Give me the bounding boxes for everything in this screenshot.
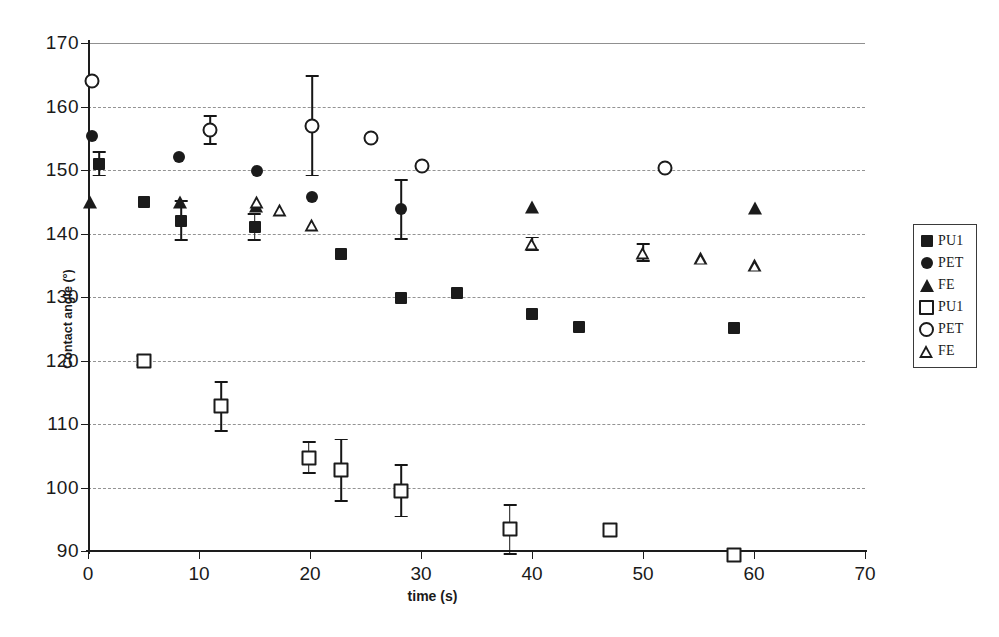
x-axis-title: time (s) — [0, 588, 865, 604]
y-tick-label-160: 160 — [46, 96, 79, 118]
legend-item-label: PET — [938, 255, 964, 271]
legend-item-label: PU1 — [938, 299, 964, 315]
y-tick-label-130: 130 — [46, 286, 79, 308]
data-point — [602, 523, 617, 538]
open-square-icon — [919, 300, 934, 315]
legend-item-label: FE — [938, 277, 955, 293]
legend-item-0: PU1 — [919, 230, 973, 252]
y-tick-140 — [81, 234, 90, 235]
x-tick-20 — [310, 551, 311, 559]
data-point — [249, 195, 264, 208]
y-tick-100 — [81, 488, 90, 489]
data-point — [305, 118, 320, 133]
data-point — [249, 221, 261, 233]
data-point — [138, 196, 150, 208]
legend-item-5: FE — [919, 340, 973, 362]
data-point — [395, 292, 407, 304]
chart-legend: PU1PETFEPU1PETFE — [913, 224, 977, 368]
contact-angle-chart: Contact angle (°) time (s) 9010011012013… — [0, 0, 999, 637]
data-point — [748, 259, 763, 272]
data-point — [658, 161, 673, 176]
data-point — [136, 353, 151, 368]
y-tick-label-150: 150 — [46, 159, 79, 181]
x-tick-60 — [754, 551, 755, 559]
y-tick-130 — [81, 297, 90, 298]
y-tick-160 — [81, 107, 90, 108]
data-point — [273, 204, 288, 217]
data-point — [175, 215, 187, 227]
gridline-y-170 — [88, 43, 865, 44]
data-point — [502, 522, 517, 537]
gridline-y-110 — [88, 424, 865, 425]
gridline-y-140 — [88, 234, 865, 235]
data-point — [305, 218, 320, 231]
y-tick-label-170: 170 — [46, 32, 79, 54]
data-point — [335, 248, 347, 260]
legend-item-3: PU1 — [919, 296, 973, 318]
x-tick-label-10: 10 — [188, 563, 209, 585]
y-tick-120 — [81, 361, 90, 362]
gridline-y-100 — [88, 488, 865, 489]
gridline-y-160 — [88, 107, 865, 108]
filled-circle-icon — [919, 257, 934, 269]
x-tick-label-20: 20 — [299, 563, 320, 585]
data-point — [214, 399, 229, 414]
x-tick-label-30: 30 — [410, 563, 431, 585]
y-tick-150 — [81, 170, 90, 171]
data-point — [748, 202, 762, 215]
legend-item-4: PET — [919, 318, 973, 340]
data-point — [173, 195, 187, 208]
gridline-y-120 — [88, 361, 865, 362]
data-point — [415, 158, 430, 173]
x-tick-label-60: 60 — [743, 563, 764, 585]
data-point — [85, 74, 100, 89]
open-triangle-icon — [919, 345, 934, 358]
data-point — [251, 165, 263, 177]
filled-triangle-icon — [919, 279, 934, 292]
gridline-y-150 — [88, 170, 865, 171]
filled-square-icon — [919, 235, 934, 247]
data-point — [525, 237, 540, 250]
legend-item-1: PET — [919, 252, 973, 274]
data-point — [173, 151, 185, 163]
data-point — [525, 200, 539, 213]
legend-item-label: FE — [938, 343, 955, 359]
legend-item-label: PET — [938, 321, 964, 337]
x-tick-0 — [88, 551, 89, 559]
x-tick-label-40: 40 — [521, 563, 542, 585]
y-tick-label-90: 90 — [57, 540, 79, 562]
data-point — [83, 195, 97, 208]
plot-area: 9010011012013014015016017001020304050607… — [88, 43, 865, 551]
data-point — [693, 252, 708, 265]
data-point — [395, 203, 407, 215]
y-tick-170 — [81, 43, 90, 44]
data-point — [728, 322, 740, 334]
x-tick-label-0: 0 — [83, 563, 94, 585]
x-tick-30 — [421, 551, 422, 559]
data-point — [394, 483, 409, 498]
y-tick-label-110: 110 — [47, 413, 79, 435]
x-tick-40 — [532, 551, 533, 559]
y-tick-label-120: 120 — [46, 350, 79, 372]
data-point — [727, 548, 742, 563]
x-tick-10 — [199, 551, 200, 559]
data-point — [203, 122, 218, 137]
data-point — [573, 321, 585, 333]
open-circle-icon — [919, 322, 934, 337]
legend-item-label: PU1 — [938, 233, 964, 249]
x-tick-label-50: 50 — [632, 563, 653, 585]
x-tick-70 — [865, 551, 866, 559]
data-point — [451, 287, 463, 299]
data-point — [86, 130, 98, 142]
data-point — [93, 158, 105, 170]
data-point — [306, 191, 318, 203]
legend-item-2: FE — [919, 274, 973, 296]
data-point — [526, 308, 538, 320]
x-tick-label-70: 70 — [854, 563, 875, 585]
data-point — [334, 463, 349, 478]
data-point — [364, 131, 379, 146]
data-point — [301, 450, 316, 465]
gridline-y-130 — [88, 297, 865, 298]
data-point — [636, 246, 651, 259]
y-tick-label-140: 140 — [46, 223, 79, 245]
